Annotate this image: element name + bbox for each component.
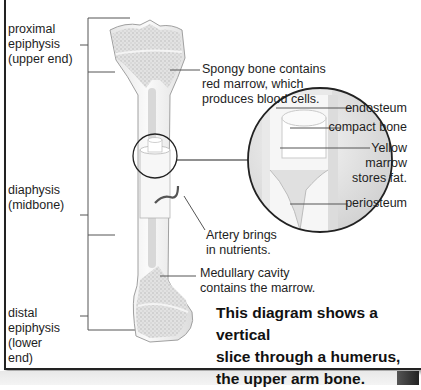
- label-diaphysis: diaphysis (midbone): [8, 183, 64, 213]
- label-artery: Artery brings in nutrients.: [206, 228, 277, 258]
- label-endosteum: endosteum: [345, 101, 407, 116]
- label-compact-bone: compact bone: [328, 120, 407, 135]
- label-spongy-bone: Spongy bone contains red marrow, which p…: [202, 62, 326, 107]
- diagram-caption: This diagram shows a vertical slice thro…: [216, 302, 419, 390]
- humerus-bone: [110, 20, 193, 342]
- label-medullary-cavity: Medullary cavity contains the marrow.: [200, 266, 315, 296]
- label-periosteum: periosteum: [345, 196, 407, 211]
- label-proximal-epiphysis: proximal epiphysis (upper end): [8, 22, 73, 67]
- label-distal-epiphysis: distal epiphysis (lower end): [8, 306, 60, 366]
- label-yellow-marrow: Yellow marrow stores fat.: [352, 141, 407, 186]
